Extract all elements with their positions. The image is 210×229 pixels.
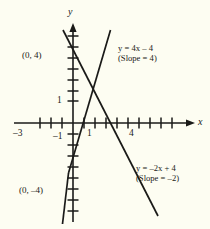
point-label-0-minus-4: (0, –4) bbox=[19, 185, 43, 195]
annotation-line-2-slope: (Slope = –2) bbox=[136, 174, 179, 184]
y-axis-label: y bbox=[68, 6, 72, 17]
line-y-equals-4x-minus-4-lower bbox=[63, 173, 69, 224]
graph-figure: y x –3 –1 1 4 1 (0, 4) (0, –4) y = 4x – … bbox=[0, 0, 210, 229]
point-label-0-4: (0, 4) bbox=[22, 50, 42, 60]
x-axis-label: x bbox=[198, 116, 202, 127]
x-axis-arrow bbox=[186, 119, 195, 126]
annotation-line-1-slope: (Slope = 4) bbox=[118, 54, 157, 64]
x-tick-label-minus-3: –3 bbox=[13, 128, 23, 139]
x-tick-label-1: 1 bbox=[87, 128, 92, 139]
annotation-line-2-equation: y = –2x + 4 bbox=[136, 163, 176, 173]
y-tick-label-1: 1 bbox=[57, 95, 62, 106]
x-tick-label-4: 4 bbox=[129, 128, 134, 139]
annotation-line-1: y = 4x – 4 (Slope = 4) bbox=[118, 44, 157, 63]
x-axis bbox=[14, 119, 195, 126]
annotation-line-2: y = –2x + 4 (Slope = –2) bbox=[136, 164, 179, 183]
y-axis-arrow bbox=[69, 23, 76, 32]
annotation-line-1-equation: y = 4x – 4 bbox=[118, 43, 153, 53]
x-tick-label-minus-1: –1 bbox=[53, 131, 63, 142]
